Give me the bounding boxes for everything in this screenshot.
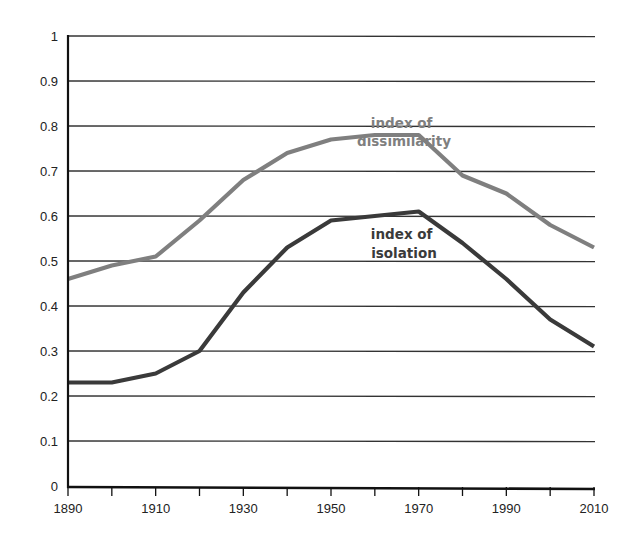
gridline bbox=[68, 81, 595, 82]
y-tick-label: 0.9 bbox=[40, 74, 58, 89]
gridline bbox=[68, 306, 595, 307]
y-tick-label: 0.6 bbox=[40, 209, 58, 224]
gridline bbox=[68, 171, 595, 172]
gridline bbox=[68, 261, 595, 262]
y-tick-label: 0.4 bbox=[40, 299, 58, 314]
gridline bbox=[68, 351, 595, 352]
gridline bbox=[68, 36, 595, 37]
y-tick-label: 0 bbox=[51, 479, 58, 494]
x-tick-label: 1930 bbox=[229, 501, 258, 516]
line-chart: 00.10.20.30.40.50.60.70.80.91 1890191019… bbox=[0, 0, 643, 552]
y-axis-tick-labels: 00.10.20.30.40.50.60.70.80.91 bbox=[40, 29, 58, 494]
x-tick-label: 1890 bbox=[54, 501, 83, 516]
gridline bbox=[68, 396, 595, 397]
gridline bbox=[68, 441, 595, 442]
dissimilarity-line bbox=[68, 135, 594, 279]
gridline bbox=[68, 216, 595, 217]
x-tick-label: 1910 bbox=[141, 501, 170, 516]
x-tick-label: 1950 bbox=[317, 501, 346, 516]
x-axis bbox=[67, 487, 595, 489]
x-tick-label: 1990 bbox=[492, 501, 521, 516]
series-labels: index of dissimilarity index of isolatio… bbox=[357, 115, 451, 261]
isolation-line bbox=[68, 212, 594, 383]
x-tick-label: 1970 bbox=[404, 501, 433, 516]
y-tick-label: 1 bbox=[51, 29, 58, 44]
y-tick-label: 0.8 bbox=[40, 119, 58, 134]
x-tick-label: 2010 bbox=[580, 501, 609, 516]
y-tick-label: 0.5 bbox=[40, 254, 58, 269]
x-axis-ticks: 1890191019301950197019902010 bbox=[54, 487, 609, 516]
y-tick-label: 0.2 bbox=[40, 389, 58, 404]
y-tick-label: 0.3 bbox=[40, 344, 58, 359]
dissimilarity-label: index of dissimilarity bbox=[357, 115, 451, 149]
isolation-label: index of isolation bbox=[371, 226, 437, 261]
gridlines bbox=[68, 36, 595, 442]
gridline bbox=[68, 126, 595, 127]
y-tick-label: 0.1 bbox=[40, 434, 58, 449]
y-tick-label: 0.7 bbox=[40, 164, 58, 179]
